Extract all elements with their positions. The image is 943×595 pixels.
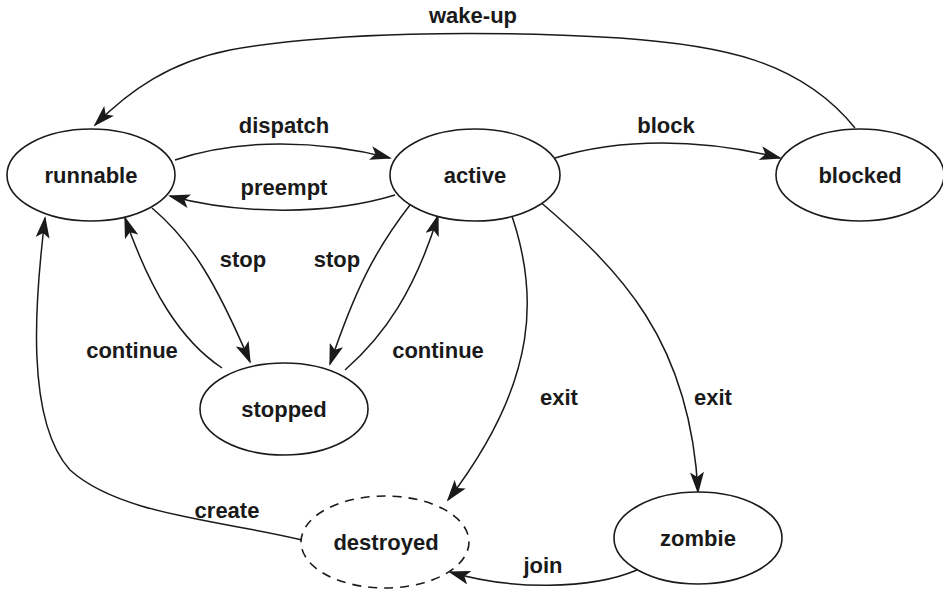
edge-block <box>555 143 780 158</box>
edge-label-exit-zombie: exit <box>694 387 732 409</box>
state-label-blocked: blocked <box>818 165 901 187</box>
state-label-runnable: runnable <box>45 165 138 187</box>
edge-label-exit-destroyed: exit <box>540 387 578 409</box>
edge-label-wake-up: wake-up <box>429 5 517 27</box>
state-label-zombie: zombie <box>660 528 736 550</box>
edge-label-join: join <box>523 555 562 577</box>
edge-label-preempt: preempt <box>241 177 328 199</box>
edge-label-continue-runnable: continue <box>86 340 178 362</box>
edge-label-block: block <box>637 115 694 137</box>
state-diagram <box>0 0 943 595</box>
state-label-active: active <box>444 165 506 187</box>
edge-label-continue-active: continue <box>392 340 484 362</box>
edge-label-dispatch: dispatch <box>239 115 329 137</box>
edge-dispatch <box>175 144 390 160</box>
state-label-stopped: stopped <box>241 399 327 421</box>
edge-label-create: create <box>195 500 260 522</box>
edge-wake-up <box>95 34 855 128</box>
edge-label-stop-runnable: stop <box>220 249 266 271</box>
edge-exit-zombie <box>538 200 698 492</box>
state-label-destroyed: destroyed <box>333 532 438 554</box>
edge-label-stop-active: stop <box>314 249 360 271</box>
